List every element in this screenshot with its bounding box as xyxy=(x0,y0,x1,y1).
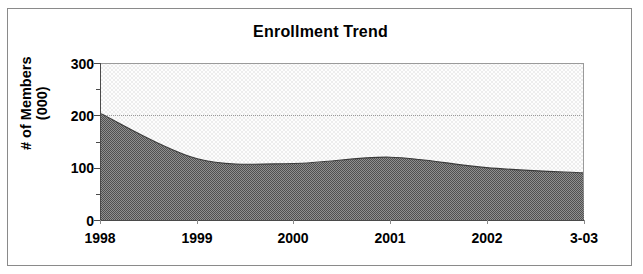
y-axis-title: # of Members (000) xyxy=(18,23,50,183)
x-axis-tick-2002 xyxy=(487,220,488,224)
plot-area xyxy=(101,63,584,220)
y-axis-title-line2: (000) xyxy=(34,23,50,183)
x-axis-label-3-03: 3-03 xyxy=(549,230,619,246)
x-axis-line xyxy=(100,220,585,221)
x-axis-label-2000: 2000 xyxy=(258,230,328,246)
chart-title: Enrollment Trend xyxy=(8,23,633,41)
x-axis-tick-2001 xyxy=(390,220,391,224)
x-axis-tick-2000 xyxy=(293,220,294,224)
x-axis-tick-3-03 xyxy=(584,220,585,224)
x-axis-label-1998: 1998 xyxy=(65,230,135,246)
y-axis-tick-label-200: 200 xyxy=(46,109,94,123)
x-axis-label-1999: 1999 xyxy=(162,230,232,246)
y-axis-tick-label-300: 300 xyxy=(46,57,94,71)
x-axis-label-2001: 2001 xyxy=(355,230,425,246)
y-axis-title-line1: # of Members xyxy=(18,23,34,183)
area-series xyxy=(101,63,584,220)
x-axis-tick-1999 xyxy=(197,220,198,224)
y-axis-tick-label-0: 0 xyxy=(46,214,94,228)
x-axis-label-2002: 2002 xyxy=(452,230,522,246)
x-axis-tick-1998 xyxy=(100,220,101,224)
chart-frame: Enrollment Trend # of Members (000) 300 … xyxy=(7,8,632,266)
y-axis-tick-label-100: 100 xyxy=(46,161,94,175)
